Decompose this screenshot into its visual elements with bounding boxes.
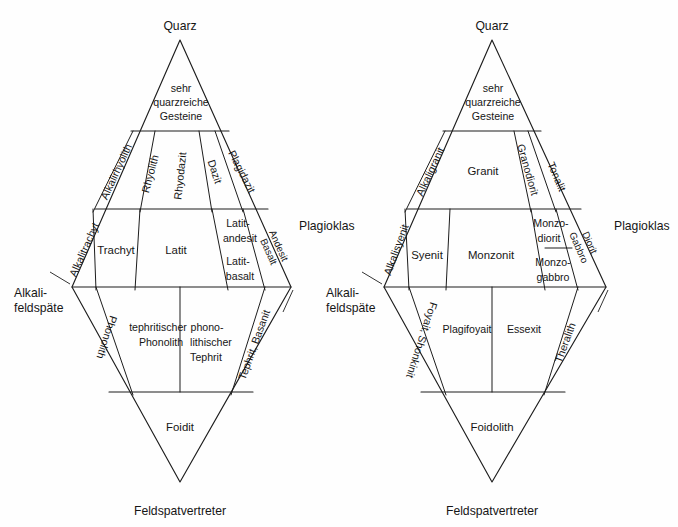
right-corner-feldspatvertreter: Feldspatvertreter <box>446 504 538 518</box>
right-corner-alkalifeldspaete-line1: Alkali- <box>326 286 359 300</box>
left-corner-quarz: Quarz <box>163 19 196 33</box>
right-field-granit: Granit <box>467 165 499 177</box>
right-corner-plagioklas: Plagioklas <box>614 219 670 233</box>
right-field-tonalit: Tonalit <box>546 160 569 193</box>
right-div-syenit-monzonit <box>446 209 450 290</box>
left-field-phonteph-3: Tephrit <box>190 351 222 363</box>
left-field-latit: Latit <box>165 244 187 256</box>
left-div-trachyt-latit <box>135 209 140 290</box>
left-field-quarzreiche: quarzreiche <box>153 96 208 108</box>
left-panel: Quarz Alkali- feldspäte Plagioklas Felds… <box>14 19 355 518</box>
left-corner-plagioklas: Plagioklas <box>299 219 355 233</box>
right-field-alkaligranit: Alkaligranit <box>413 145 446 197</box>
right-div-alkalisyenit <box>405 209 409 290</box>
right-field-monzodiorit-2: diorit <box>538 232 561 244</box>
left-field-tephrphon-2: Phonolith <box>139 336 183 348</box>
right-panel: Quarz Alkali- feldspäte Plagioklas Felds… <box>326 19 670 518</box>
right-field-syenit: Syenit <box>411 249 443 261</box>
right-field-gesteine: Gesteine <box>472 110 515 122</box>
left-field-phonolith: Phonolith <box>95 314 120 360</box>
left-field-alkalirhyolith: Alkalirhyolith <box>98 142 134 201</box>
left-field-dazit: Dazit <box>206 158 225 185</box>
left-corner-alkalifeldspaete-line2: feldspäte <box>14 301 64 315</box>
right-field-foyaitshonkinit: Foyait, Shonkinit <box>404 301 440 380</box>
left-field-latitandesit-1: Latit- <box>226 217 250 229</box>
right-field-plagifoyait: Plagifoyait <box>443 323 492 335</box>
right-field-essexit: Essexit <box>507 323 541 335</box>
left-field-rhyodazit: Rhyodazit <box>171 152 188 201</box>
diagram-canvas: Quarz Alkali- feldspäte Plagioklas Felds… <box>0 0 678 527</box>
left-div-alkalitrachyt <box>93 209 96 290</box>
right-field-alkalisyenit: Alkalisyenit <box>381 222 411 276</box>
left-corner-alkalifeldspaete-line1: Alkali- <box>14 286 47 300</box>
left-field-plagidazit: Plagidazit <box>226 148 258 195</box>
left-field-gesteine: Gesteine <box>160 110 203 122</box>
right-field-monzodiorit-1: Monzo- <box>533 217 569 229</box>
right-field-sehr: sehr <box>483 82 504 94</box>
left-field-latitbasalt-2: basalt <box>226 270 254 282</box>
right-alkalifeldspaete-leader <box>362 272 382 284</box>
right-field-foidolith: Foidolith <box>470 421 513 433</box>
right-field-monzonit: Monzonit <box>468 249 515 261</box>
left-field-foidit: Foidit <box>166 421 195 433</box>
left-field-sehr: sehr <box>171 82 192 94</box>
left-field-latitandesit-2: andesit <box>223 232 257 244</box>
qapf-diagram-figure: Quarz Alkali- feldspäte Plagioklas Felds… <box>0 0 678 527</box>
left-field-latitbasalt-1: Latit- <box>226 255 250 267</box>
right-corner-quarz: Quarz <box>475 19 508 33</box>
left-field-alkalitrachyt: Alkalitrachyt <box>67 221 101 279</box>
right-corner-alkalifeldspaete-line2: feldspäte <box>326 301 376 315</box>
right-field-granodiorit: Granodiorit <box>515 143 541 197</box>
right-field-quarzreiche: quarzreiche <box>465 96 520 108</box>
left-field-tephritbasanit: Tephrit, Basanit <box>236 308 272 381</box>
left-field-phonteph-2: lithischer <box>190 336 232 348</box>
left-field-tephrphon-1: tephritischer <box>129 321 187 333</box>
left-corner-feldspatvertreter: Feldspatvertreter <box>134 504 226 518</box>
left-field-trachyt: Trachyt <box>97 244 135 256</box>
right-plagioklas-leader <box>598 290 608 312</box>
left-field-rhyolith: Rhyolith <box>139 153 161 193</box>
right-field-monzogabbro-1: Monzo- <box>535 256 571 268</box>
left-field-phonteph-1: phono- <box>191 321 224 333</box>
right-field-monzogabbro-2: gabbro <box>537 271 570 283</box>
